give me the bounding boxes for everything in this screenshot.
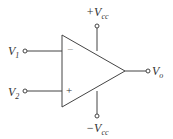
vo-label: Vo [152,65,163,80]
inverting-input-sign: − [67,44,73,55]
v2-label: V2 [8,86,19,101]
vcc-neg-label: −Vcc [86,122,109,137]
v2-terminal [23,89,27,93]
v1-label: V1 [8,45,19,60]
vcc-pos-terminal [95,24,99,28]
vo-terminal [146,69,150,73]
v1-terminal [23,49,27,53]
vcc-neg-terminal [95,114,99,118]
noninverting-input-sign: + [66,85,72,96]
vcc-pos-label: +Vcc [86,6,109,21]
